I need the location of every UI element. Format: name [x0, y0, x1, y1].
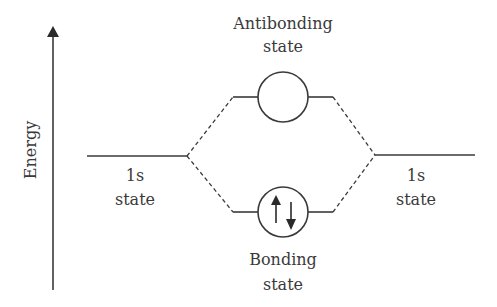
right-level-label-1: 1s	[407, 166, 425, 185]
left-1s-level: 1s state	[87, 156, 187, 209]
antibonding-orbital: Antibonding state	[232, 14, 333, 122]
energy-axis-label: Energy	[21, 121, 40, 179]
arrow-up-icon	[47, 26, 59, 37]
antibonding-label-2: state	[263, 37, 303, 56]
right-level-label-2: state	[396, 190, 436, 209]
left-level-label-2: state	[115, 190, 155, 209]
diagram-svg: Energy 1s state 1s state Antibonding sta…	[0, 0, 497, 307]
correlation-lines	[187, 97, 375, 212]
energy-axis: Energy	[21, 26, 59, 290]
bonding-orbital: Bonding state	[233, 187, 333, 294]
spin-up-arrow-icon	[271, 195, 281, 223]
left-level-label-1: 1s	[126, 166, 144, 185]
bonding-label-2: state	[263, 275, 303, 294]
bonding-label-1: Bonding	[249, 250, 317, 269]
mo-diagram: Energy 1s state 1s state Antibonding sta…	[0, 0, 497, 307]
spin-down-arrow-icon	[286, 202, 296, 230]
empty-orbital-circle	[258, 72, 308, 122]
filled-orbital-circle	[258, 187, 308, 237]
antibonding-label-1: Antibonding	[232, 14, 333, 33]
right-1s-level: 1s state	[375, 155, 475, 209]
